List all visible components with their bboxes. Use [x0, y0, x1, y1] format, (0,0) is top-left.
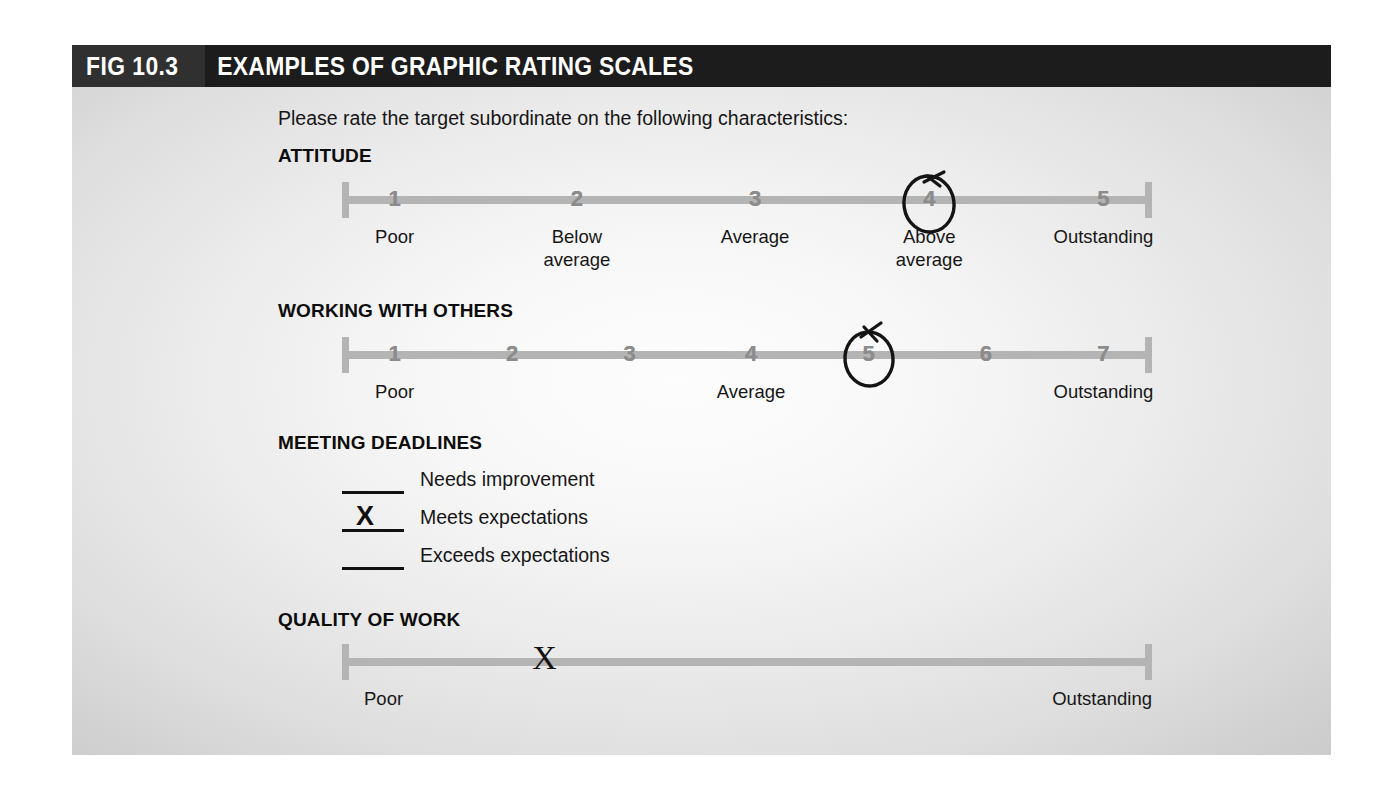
instruction-text: Please rate the target subordinate on th…	[278, 107, 848, 130]
checklist-item-label: Meets expectations	[420, 506, 588, 529]
scale-point-5[interactable]: 5	[862, 340, 874, 368]
rating-scale-quality-of-work[interactable]: X	[342, 642, 1152, 682]
scale-anchor-quality-poor: Poor	[364, 687, 403, 710]
section-title-attitude: ATTITUDE	[278, 145, 372, 167]
form-content: Please rate the target subordinate on th…	[278, 87, 1331, 755]
scale-point-4[interactable]: 4	[745, 340, 757, 368]
scale-point-6[interactable]: 6	[980, 340, 992, 368]
checklist-blank-line[interactable]	[342, 567, 404, 570]
scale-end-cap-left	[342, 337, 349, 373]
checklist-item-label: Exceeds expectations	[420, 544, 610, 567]
checklist-x-mark: X	[356, 501, 374, 531]
scale-line	[342, 658, 1152, 666]
scale-end-cap-right	[1145, 182, 1152, 218]
scale-anchor-quality-outstanding: Outstanding	[1052, 687, 1152, 710]
figure-body-panel: Please rate the target subordinate on th…	[72, 87, 1331, 755]
figure-title: EXAMPLES OF GRAPHIC RATING SCALES	[205, 51, 693, 82]
scale-point-1[interactable]: 1	[389, 185, 401, 213]
scale-point-1[interactable]: 1	[389, 340, 401, 368]
section-title-meeting-deadlines: MEETING DEADLINES	[278, 432, 482, 454]
scale-end-cap-right	[1145, 644, 1152, 680]
scale-end-cap-left	[342, 644, 349, 680]
checklist-blank-line[interactable]	[342, 491, 404, 494]
figure-number: FIG 10.3	[86, 51, 179, 82]
scale-point-3[interactable]: 3	[749, 185, 761, 213]
scale-anchor-attitude-5: Outstanding	[1054, 225, 1154, 248]
scale-point-5[interactable]: 5	[1097, 185, 1109, 213]
section-title-working-with-others: WORKING WITH OTHERS	[278, 300, 513, 322]
handwritten-x-mark-quality: X	[532, 641, 557, 675]
scale-point-2[interactable]: 2	[571, 185, 583, 213]
scale-anchor-working-4: Average	[717, 380, 786, 403]
scale-end-cap-right	[1145, 337, 1152, 373]
scale-anchor-attitude-2: Below average	[543, 225, 610, 271]
figure-container: FIG 10.3 EXAMPLES OF GRAPHIC RATING SCAL…	[72, 45, 1331, 755]
figure-number-block: FIG 10.3	[72, 45, 205, 87]
scale-line	[342, 196, 1152, 204]
section-title-quality-of-work: QUALITY OF WORK	[278, 609, 460, 631]
rating-scale-working-with-others[interactable]: 1 2 3 4 5 6 7	[342, 335, 1152, 375]
scale-anchor-attitude-1: Poor	[375, 225, 414, 248]
scale-anchor-attitude-3: Average	[721, 225, 790, 248]
scale-end-cap-left	[342, 182, 349, 218]
scale-point-3[interactable]: 3	[623, 340, 635, 368]
scale-anchor-working-7: Outstanding	[1054, 380, 1154, 403]
figure-header-bar: FIG 10.3 EXAMPLES OF GRAPHIC RATING SCAL…	[72, 45, 1331, 87]
rating-scale-attitude[interactable]: 1 2 3 4 5	[342, 180, 1152, 220]
scale-point-7[interactable]: 7	[1097, 340, 1109, 368]
scale-anchor-working-1: Poor	[375, 380, 414, 403]
checklist-item-label: Needs improvement	[420, 468, 595, 491]
scale-point-4[interactable]: 4	[923, 185, 935, 213]
scale-point-2[interactable]: 2	[506, 340, 518, 368]
scale-anchor-attitude-4: Above average	[896, 225, 963, 271]
